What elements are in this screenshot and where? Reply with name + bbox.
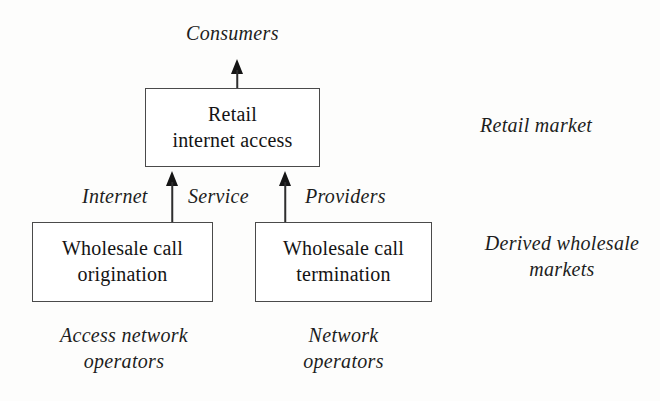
arrow-shaft (236, 70, 238, 89)
access-network-operators-label: Access network operators (35, 322, 213, 375)
providers-label: Providers (305, 183, 386, 209)
derived-wholesale-markets-tier-label: Derived wholesale markets (472, 230, 652, 283)
box-origination-line-1: Wholesale call (62, 236, 183, 262)
arrow-termination-to-retail (277, 171, 293, 223)
box-termination-line-1: Wholesale call (283, 236, 404, 262)
arrow-retail-to-consumers (229, 59, 245, 89)
box-wholesale-call-origination[interactable]: Wholesale call origination (32, 222, 213, 302)
box-retail-line-1: Retail (208, 102, 257, 128)
network-operators-line-2: operators (255, 348, 432, 374)
box-wholesale-call-termination[interactable]: Wholesale call termination (255, 222, 432, 302)
access-operators-line-1: Access network (35, 322, 213, 348)
derived-markets-line-2: markets (472, 256, 652, 282)
box-retail-internet-access[interactable]: Retail internet access (145, 88, 320, 167)
arrow-shaft (171, 182, 173, 223)
network-operators-label: Network operators (255, 322, 432, 375)
box-termination-line-2: termination (296, 262, 390, 288)
access-operators-line-2: operators (35, 348, 213, 374)
market-structure-diagram: Consumers Retail internet access Interne… (0, 0, 660, 401)
derived-markets-line-1: Derived wholesale (472, 230, 652, 256)
arrow-origination-to-retail (164, 171, 180, 223)
network-operators-line-1: Network (255, 322, 432, 348)
consumers-label: Consumers (186, 20, 279, 46)
arrow-shaft (284, 182, 286, 223)
retail-market-tier-label: Retail market (480, 112, 592, 138)
internet-label: Internet (82, 183, 148, 209)
service-label: Service (188, 183, 249, 209)
box-retail-line-2: internet access (172, 128, 292, 154)
box-origination-line-2: origination (78, 262, 168, 288)
